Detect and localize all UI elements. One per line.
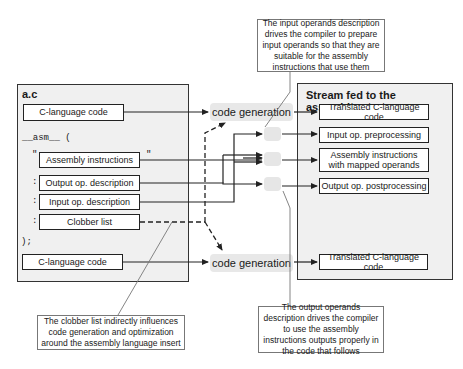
- connector-lines: [0, 0, 463, 369]
